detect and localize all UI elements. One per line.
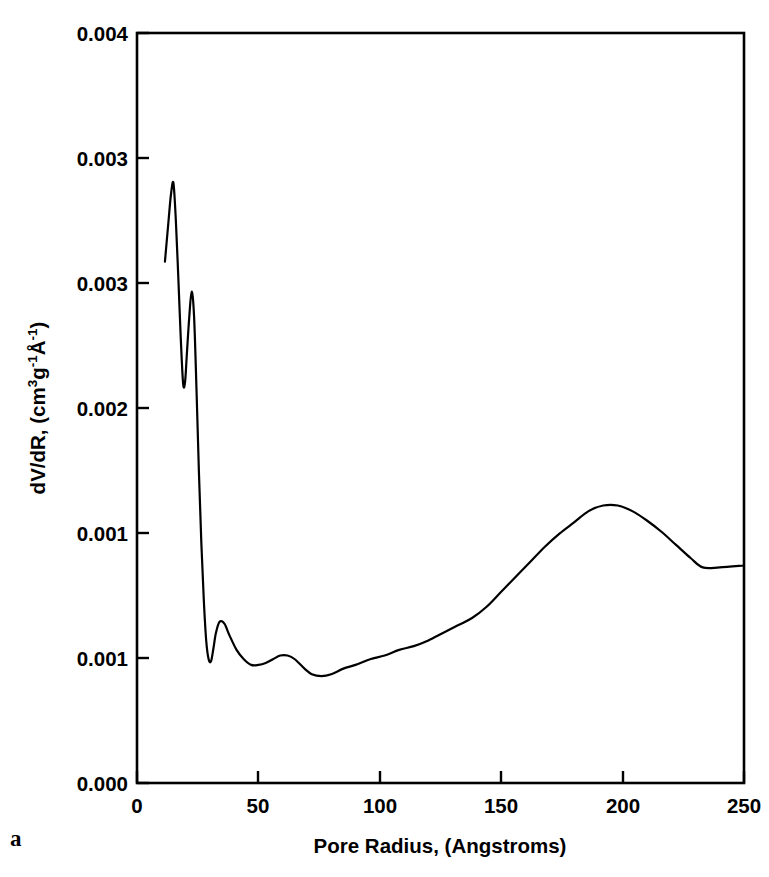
y-axis-title-tail: ) — [26, 322, 49, 329]
x-tick-label-5: 250 — [727, 794, 761, 817]
y-axis-title-sup-g: -1 — [25, 355, 40, 367]
x-tick-label-2: 100 — [363, 794, 397, 817]
x-tick-label-3: 150 — [484, 794, 518, 817]
y-axis-title: dV/dR, (cm3g-1Å-1) — [25, 322, 49, 495]
x-axis-ticks — [137, 771, 744, 783]
y-axis-title-angstrom: Å — [26, 340, 49, 355]
y-axis-ticks — [137, 33, 149, 783]
panel-label: a — [10, 826, 22, 851]
x-tick-label-0: 0 — [131, 794, 142, 817]
pore-distribution-curve — [165, 182, 744, 676]
y-axis-title-sup-angstrom: -1 — [25, 328, 40, 340]
y-tick-label-0: 0.004 — [77, 22, 129, 45]
x-tick-label-1: 50 — [247, 794, 270, 817]
y-tick-label-3: 0.002 — [77, 397, 128, 420]
y-tick-label-2: 0.003 — [77, 272, 128, 295]
y-tick-label-6: 0.000 — [77, 772, 128, 795]
pore-size-distribution-chart: 0.004 0.003 0.003 0.002 0.001 0.001 0.00… — [0, 0, 769, 877]
y-axis-title-g: g — [26, 367, 49, 380]
y-axis-tick-labels: 0.004 0.003 0.003 0.002 0.001 0.001 0.00… — [77, 22, 129, 795]
figure-container: 0.004 0.003 0.003 0.002 0.001 0.001 0.00… — [0, 0, 769, 877]
x-tick-label-4: 200 — [606, 794, 640, 817]
y-axis-title-lead: dV/dR, (cm — [26, 387, 49, 494]
x-axis-title: Pore Radius, (Angstroms) — [314, 834, 567, 857]
plot-frame — [137, 33, 744, 783]
y-tick-label-4: 0.001 — [77, 522, 128, 545]
y-tick-label-5: 0.001 — [77, 647, 128, 670]
x-axis-tick-labels: 0 50 100 150 200 250 — [131, 794, 761, 817]
y-tick-label-1: 0.003 — [77, 147, 128, 170]
